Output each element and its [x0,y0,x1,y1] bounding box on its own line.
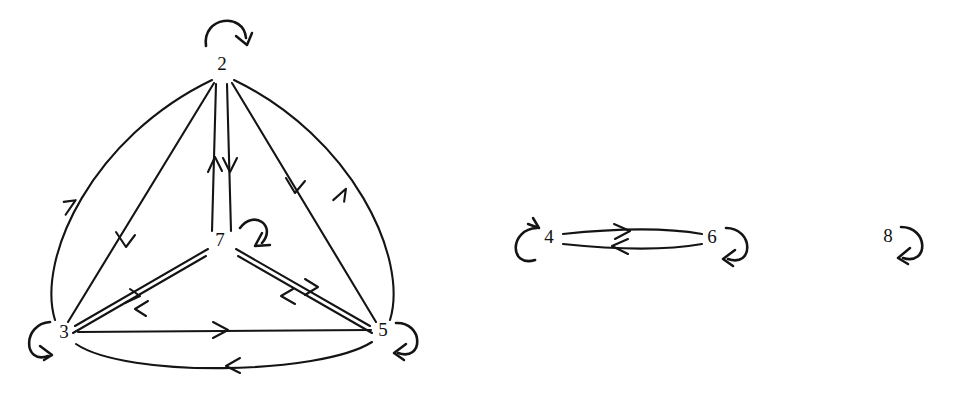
self-loop-5[interactable] [394,323,417,360]
edge-7-to-5[interactable] [236,249,370,326]
edge-6-to-4[interactable] [563,239,702,254]
edge-7-to-3[interactable] [73,256,206,333]
node-label-8: 8 [883,225,893,246]
node-label-2: 2 [217,53,227,74]
edge-4-to-6[interactable] [563,224,702,239]
node-label-5: 5 [378,319,388,340]
edge-7-to-2[interactable] [208,84,222,231]
node-label-7: 7 [215,229,225,250]
component-3: 8 [883,225,922,264]
self-loop-4[interactable] [516,218,539,261]
self-loop-3[interactable] [29,322,52,360]
edge-3-to-7[interactable] [75,249,208,326]
node-label-3: 3 [59,321,69,342]
edge-3-to-2[interactable] [51,80,212,320]
self-loop-8[interactable] [898,227,922,264]
node-label-6: 6 [707,226,717,247]
self-loop-6[interactable] [723,228,747,266]
component-1: 2 7 3 5 [29,21,417,373]
node-label-4: 4 [544,226,554,247]
edge-5-to-7[interactable] [238,256,372,333]
edge-2-to-7[interactable] [223,84,237,231]
graph-canvas: 2 7 3 5 4 6 [0,0,953,395]
component-2: 4 6 [516,218,748,266]
self-loop-7[interactable] [240,220,270,246]
self-loop-2[interactable] [206,21,252,46]
edge-2-to-5[interactable] [232,83,376,322]
edge-3-to-5[interactable] [78,322,371,338]
edge-5-to-3[interactable] [76,342,372,373]
edge-2-to-3[interactable] [68,83,214,322]
graph-page: { "figure": { "kind": "hand-drawn-direct… [0,0,953,395]
